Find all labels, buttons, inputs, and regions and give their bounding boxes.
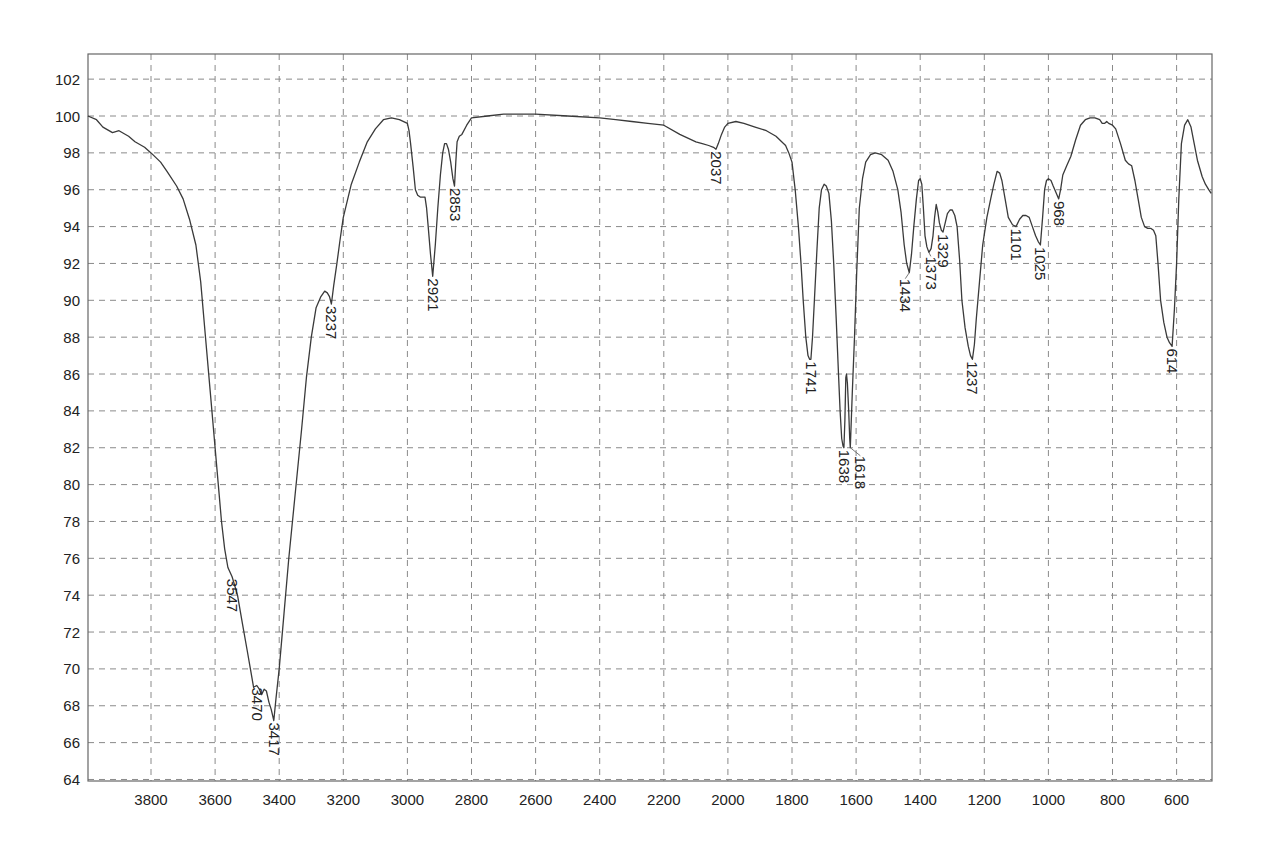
peak-label: 3470: [249, 688, 266, 721]
x-tick-label: 3800: [134, 791, 167, 808]
y-tick-label: 80: [63, 476, 80, 493]
y-tick-label: 90: [63, 292, 80, 309]
x-tick-label: 3600: [198, 791, 231, 808]
peak-label: 614: [1164, 348, 1181, 373]
peak-label: 1638: [836, 450, 853, 483]
x-tick-label: 3200: [327, 791, 360, 808]
peak-annotations: 3547347034173237292128532037174116381618…: [224, 151, 1181, 756]
peak-label: 1329: [935, 234, 952, 267]
y-tick-label: 74: [63, 587, 80, 604]
peak-label: 3547: [224, 579, 241, 612]
y-tick-label: 102: [55, 71, 80, 88]
peak-label: 2853: [447, 188, 464, 221]
y-tick-label: 68: [63, 697, 80, 714]
x-axis-ticks: 3800360034003200300028002600240022002000…: [134, 791, 1189, 808]
y-tick-label: 64: [63, 771, 80, 788]
peak-label: 3237: [323, 306, 340, 339]
peak-label: 1741: [803, 361, 820, 394]
spectrum-trace: [88, 114, 1211, 720]
y-tick-label: 88: [63, 329, 80, 346]
x-tick-label: 1200: [968, 791, 1001, 808]
y-tick-label: 96: [63, 181, 80, 198]
peak-label: 2921: [425, 278, 442, 311]
x-tick-label: 1400: [904, 791, 937, 808]
peak-label: 1025: [1032, 247, 1049, 280]
x-tick-label: 600: [1164, 791, 1189, 808]
y-tick-label: 76: [63, 550, 80, 567]
y-tick-label: 82: [63, 439, 80, 456]
peak-label: 1618: [852, 456, 869, 489]
x-tick-label: 1600: [839, 791, 872, 808]
peak-label: 3417: [266, 723, 283, 756]
peak-label: 968: [1051, 201, 1068, 226]
x-tick-label: 2800: [455, 791, 488, 808]
x-tick-label: 2200: [647, 791, 680, 808]
y-tick-label: 94: [63, 218, 80, 235]
y-tick-label: 72: [63, 624, 80, 641]
x-tick-label: 2600: [519, 791, 552, 808]
x-tick-label: 2400: [583, 791, 616, 808]
x-tick-label: 1000: [1032, 791, 1065, 808]
y-tick-label: 92: [63, 255, 80, 272]
x-tick-label: 1800: [775, 791, 808, 808]
ir-spectrum-chart: 6466687072747678808284868890929496981001…: [0, 0, 1265, 853]
x-tick-label: 2000: [711, 791, 744, 808]
peak-label: 2037: [708, 151, 725, 184]
x-tick-label: 3000: [391, 791, 424, 808]
peak-label: 1434: [897, 279, 914, 312]
y-tick-label: 100: [55, 108, 80, 125]
y-axis-ticks: 6466687072747678808284868890929496981001…: [55, 71, 80, 788]
plot-frame: [88, 54, 1212, 781]
y-tick-label: 70: [63, 660, 80, 677]
peak-label: 1101: [1008, 229, 1025, 261]
x-tick-label: 800: [1100, 791, 1125, 808]
y-tick-label: 98: [63, 144, 80, 161]
peak-label: 1237: [964, 361, 981, 394]
y-tick-label: 66: [63, 734, 80, 751]
y-tick-label: 78: [63, 513, 80, 530]
y-tick-label: 84: [63, 402, 80, 419]
y-tick-label: 86: [63, 366, 80, 383]
x-tick-label: 3400: [263, 791, 296, 808]
grid-lines: [88, 54, 1212, 781]
